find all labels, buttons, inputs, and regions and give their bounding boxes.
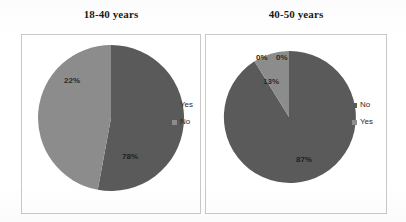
pie-label-13-percent: 13% — [263, 78, 279, 86]
legend-swatch-yes-icon — [352, 120, 357, 125]
legend-swatch-no-icon — [172, 120, 177, 125]
pie-18-40 — [37, 44, 185, 192]
pie-label-78-percent: 78% — [122, 153, 138, 161]
legend-label-no: No — [180, 118, 190, 126]
legend-item-no[interactable]: No — [352, 101, 373, 109]
pie-40-50-svg — [222, 50, 356, 184]
pie-label-zero-percent-a: 0% — [256, 54, 268, 62]
legend-40-50: No Yes — [352, 101, 373, 126]
pie-40-50 — [222, 50, 356, 184]
legend-label-no: No — [360, 101, 370, 109]
chart-title-40-50: 40-50 years — [205, 8, 387, 20]
pie-18-40-svg — [37, 44, 185, 192]
legend-18-40: Yes No — [172, 101, 193, 126]
legend-item-yes[interactable]: Yes — [352, 118, 373, 126]
legend-swatch-yes-icon — [172, 103, 177, 108]
pie-slice-no-22 — [38, 45, 111, 190]
pie-chart-figure: 18-40 years 40-50 years 22% 78% Yes No — [0, 0, 406, 222]
pie-label-87-percent: 87% — [296, 156, 312, 164]
legend-label-yes: Yes — [180, 101, 193, 109]
legend-item-yes[interactable]: Yes — [172, 101, 193, 109]
pie-label-zero-percent-b: 0% — [276, 54, 288, 62]
legend-label-yes: Yes — [360, 118, 373, 126]
chart-title-18-40: 18-40 years — [21, 8, 201, 20]
legend-item-no[interactable]: No — [172, 118, 193, 126]
pie-slice-no-87 — [224, 51, 356, 183]
legend-swatch-no-icon — [352, 103, 357, 108]
pie-label-22-percent: 22% — [64, 77, 80, 85]
